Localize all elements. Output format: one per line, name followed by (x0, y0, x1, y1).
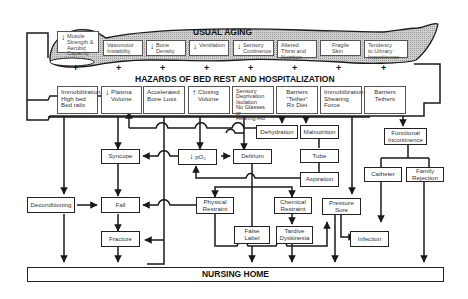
node-catheter: Catheter (364, 167, 402, 182)
node-syncope: Syncope (101, 149, 140, 164)
node-tardive-dyskinesia: Tardive Dyskinesia (276, 226, 313, 244)
bed-headboard (27, 33, 48, 100)
plus-sign: + (381, 63, 386, 73)
outcome-nursing-home: NURSING HOME (27, 267, 444, 282)
plus-sign: + (204, 63, 209, 73)
node-fracture: Fracture (101, 231, 140, 247)
node-po2: ↓ pO₂ (178, 149, 217, 165)
usual-aging-altered-thirst: Altered Thirst and Nutrition (277, 40, 317, 58)
arrow-down-icon: ↓ (105, 89, 109, 97)
node-physical-restraint: Physical Restraint (196, 197, 234, 214)
node-functional-incontinence: Functional Incontinence (384, 128, 427, 145)
usual-aging-urinary-incontinence: Tendency to Urinary Incontinence (364, 40, 408, 58)
arrow-down-icon: ↓ (61, 34, 65, 50)
usual-aging-sensory-continence: ↓ Sensory Continence (233, 40, 274, 56)
arrow-down-icon: ↓ (150, 43, 154, 53)
hazard-accelerated-bone-loss: Accelerated Bone Loss (143, 86, 185, 114)
node-tube: Tube (300, 149, 339, 163)
plus-sign: + (248, 63, 253, 73)
arrow-down-icon: ↓ (193, 43, 197, 53)
node-dehydration: Dehydration (256, 125, 298, 139)
node-fall: Fall (101, 197, 140, 213)
node-false-label: False Label (234, 226, 270, 244)
usual-aging-fragile-skin: Fragile Skin (320, 40, 361, 56)
node-chemical-restraint: Chemical Restraint (274, 197, 312, 214)
usual-aging-title: USUAL AGING (193, 27, 252, 37)
node-family-rejection: Family Rejection (406, 167, 444, 182)
plus-sign: + (160, 63, 165, 73)
hazards-title: HAZARDS OF BED REST AND HOSPITALIZATION (135, 74, 335, 84)
hazard-closing-volume: ↑ Closing Volume (188, 86, 230, 114)
usual-aging-bone-density: ↓ Bone Density (146, 40, 186, 56)
plus-sign: + (73, 63, 78, 73)
usual-aging-ventilation: ↓ Ventilation (189, 40, 229, 56)
arrow-down-icon: ↓ (189, 153, 193, 161)
node-malnutrition: Malnutrition (300, 125, 339, 139)
node-delirium: Delirium (233, 149, 272, 164)
arrow-up-icon: ↑ (192, 89, 196, 97)
plus-sign: + (292, 63, 297, 73)
hazard-plasma-volume: ↓ Plasma Volume (101, 86, 142, 114)
arrow-down-icon: ↓ (237, 43, 241, 53)
plus-sign: + (336, 63, 341, 73)
hazard-immobilization-bed-rails: Immobilization High bed Bed rails (57, 86, 98, 114)
usual-aging-vasomotor: Vasomotor Instability (103, 40, 143, 56)
node-pressure-sore: Pressure Sore (322, 198, 361, 215)
node-deconditioning: Deconditioning (27, 197, 75, 213)
hazard-sensory-deprivation: Sensory Deprivation Isolation No Glasses… (232, 86, 274, 114)
node-aspiration: Aspiration (300, 172, 339, 187)
node-infection: Infection (350, 231, 389, 247)
hazard-barriers-rx-diet: Barriers "Tether" Rx Diet (276, 86, 318, 114)
hazard-immobilization-shearing: Immobilization Shearing Force (320, 86, 362, 114)
usual-aging-muscle-strength: ↓ Muscle Strength & Aerobic Capacity (57, 31, 99, 53)
hazard-barriers-tethers: Barriers Tethers (364, 86, 406, 114)
plus-sign: + (116, 63, 121, 73)
